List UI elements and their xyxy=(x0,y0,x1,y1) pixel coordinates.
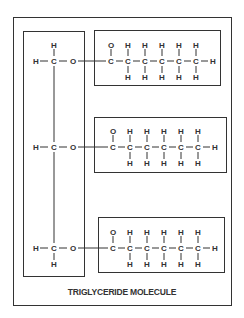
hydrogen-atom: H xyxy=(193,41,199,50)
carbon-atom: C xyxy=(161,143,167,152)
hydrogen-atom: H xyxy=(195,159,201,168)
hydrogen-atom: H xyxy=(178,228,184,237)
carbon-atom: C xyxy=(193,57,199,66)
carbon-atom: C xyxy=(161,244,167,253)
hydrogen-atom: H xyxy=(51,41,57,50)
hydrogen-atom: H xyxy=(176,41,182,50)
hydrogen-atom: H xyxy=(125,41,131,50)
carbon-atom: C xyxy=(110,143,116,152)
hydrogen-atom: H xyxy=(33,57,39,66)
hydrogen-atom: H xyxy=(161,159,167,168)
carbon-atom: C xyxy=(127,244,133,253)
hydrogen-atom: H xyxy=(212,143,218,152)
oxygen-atom: O xyxy=(110,127,116,136)
hydrogen-atom: H xyxy=(127,260,133,269)
carbon-atom: C xyxy=(144,143,150,152)
oxygen-atom: O xyxy=(108,41,114,50)
hydrogen-atom: H xyxy=(195,127,201,136)
hydrogen-atom: H xyxy=(161,228,167,237)
carbon-atom: C xyxy=(178,143,184,152)
carbon-atom: C xyxy=(176,57,182,66)
hydrogen-atom: H xyxy=(33,143,39,152)
hydrogen-atom: H xyxy=(161,127,167,136)
hydrogen-atom: H xyxy=(142,41,148,50)
carbon-atom: C xyxy=(195,244,201,253)
hydrogen-atom: H xyxy=(176,73,182,82)
oxygen-atom: O xyxy=(70,57,76,66)
carbon-atom: C xyxy=(125,57,131,66)
carbon-atom: C xyxy=(142,57,148,66)
oxygen-atom: O xyxy=(110,228,116,237)
hydrogen-atom: H xyxy=(159,73,165,82)
carbon-atom: C xyxy=(127,143,133,152)
oxygen-atom: O xyxy=(70,244,76,253)
hydrogen-atom: H xyxy=(33,244,39,253)
hydrogen-atom: H xyxy=(144,228,150,237)
hydrogen-atom: H xyxy=(161,260,167,269)
hydrogen-atom: H xyxy=(193,73,199,82)
carbon-atom: C xyxy=(178,244,184,253)
hydrogen-atom: H xyxy=(212,244,218,253)
carbon-atom: C xyxy=(144,244,150,253)
hydrogen-atom: H xyxy=(178,260,184,269)
hydrogen-atom: H xyxy=(178,127,184,136)
molecule-structure: HCOHCOCHHCHHCHHCHHCHHHHCOCOCHHCHHCHHCHHC… xyxy=(0,0,244,318)
hydrogen-atom: H xyxy=(195,260,201,269)
hydrogen-atom: H xyxy=(159,41,165,50)
hydrogen-atom: H xyxy=(127,127,133,136)
hydrogen-atom: H xyxy=(127,228,133,237)
hydrogen-atom: H xyxy=(125,73,131,82)
carbon-atom: C xyxy=(51,244,57,253)
carbon-atom: C xyxy=(110,244,116,253)
carbon-atom: C xyxy=(159,57,165,66)
diagram-caption: TRIGLYCERIDE MOLECULE xyxy=(0,287,244,297)
hydrogen-atom: H xyxy=(127,159,133,168)
hydrogen-atom: H xyxy=(210,57,216,66)
hydrogen-atom: H xyxy=(51,260,57,269)
hydrogen-atom: H xyxy=(178,159,184,168)
carbon-atom: C xyxy=(51,57,57,66)
hydrogen-atom: H xyxy=(142,73,148,82)
hydrogen-atom: H xyxy=(195,228,201,237)
hydrogen-atom: H xyxy=(144,127,150,136)
carbon-atom: C xyxy=(108,57,114,66)
carbon-atom: C xyxy=(51,143,57,152)
carbon-atom: C xyxy=(195,143,201,152)
oxygen-atom: O xyxy=(70,143,76,152)
hydrogen-atom: H xyxy=(144,159,150,168)
hydrogen-atom: H xyxy=(144,260,150,269)
